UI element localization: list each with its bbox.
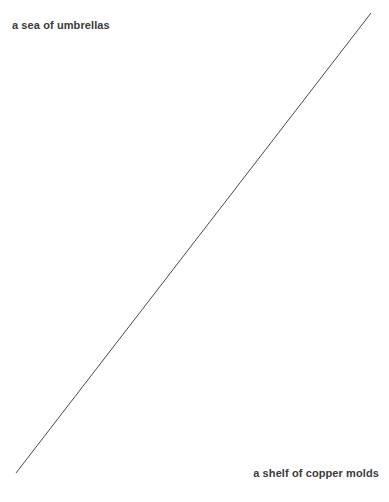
connector-line: [16, 13, 371, 473]
label-end: a shelf of copper molds: [253, 467, 379, 480]
diagram-canvas: a sea of umbrellas a shelf of copper mol…: [0, 0, 389, 502]
connector-line-layer: [0, 0, 389, 502]
label-start: a sea of umbrellas: [12, 19, 110, 32]
